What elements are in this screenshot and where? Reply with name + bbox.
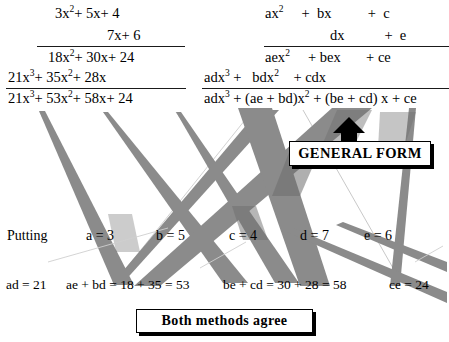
assignment-b: b = 5 bbox=[156, 228, 185, 244]
general-form-label: GENERAL FORM bbox=[298, 145, 422, 162]
algebraic-multiplicand: ax2 + bx + c bbox=[265, 6, 390, 21]
assignment-c: c = 4 bbox=[229, 228, 257, 244]
numeric-multiplier: 7x+ 6 bbox=[107, 28, 141, 43]
assignment-d: d = 7 bbox=[300, 228, 329, 244]
numeric-total: 21x3+ 53x2+ 58x+ 24 bbox=[8, 91, 133, 106]
numeric-partial-1: 18x2+ 30x+ 24 bbox=[48, 50, 134, 65]
coefficient-ad: ad = 21 bbox=[6, 277, 47, 293]
band-ad bbox=[39, 111, 134, 285]
putting-label: Putting bbox=[7, 228, 47, 244]
algebraic-total: adx3 + (ae + bd)x2 + (be + cd) x + ce bbox=[204, 91, 417, 106]
algebraic-partial-2: adx3 + bdx2 + cdx bbox=[204, 70, 326, 85]
numeric-partial-2: 21x3+ 35x2+ 28x bbox=[8, 70, 106, 85]
coefficient-ce: ce = 24 bbox=[389, 277, 429, 293]
coefficient-be-cd: be + cd = 30 + 28 = 58 bbox=[223, 277, 346, 293]
diagram-canvas: 3x2+ 5x+ 4 7x+ 6 18x2+ 30x+ 24 21x3+ 35x… bbox=[0, 0, 449, 342]
exp-3b: 3 bbox=[225, 89, 230, 99]
assignment-a: a = 3 bbox=[86, 228, 114, 244]
exp-2d: 2 bbox=[305, 89, 310, 99]
algebraic-rule-1 bbox=[264, 46, 449, 47]
coefficient-ae-bd: ae + bd = 18 + 35 = 53 bbox=[66, 277, 189, 293]
exp-2c: 2 bbox=[274, 68, 279, 78]
exp-2a: 2 bbox=[279, 4, 284, 14]
exp-3a: 3 bbox=[225, 68, 230, 78]
exp-2b: 2 bbox=[285, 48, 290, 58]
numeric-rule-1 bbox=[37, 46, 185, 47]
numeric-multiplicand: 3x2+ 5x+ 4 bbox=[55, 6, 120, 21]
algebraic-partial-1: aex2 + bex + ce bbox=[265, 50, 391, 65]
both-methods-agree-callout[interactable]: Both methods agree bbox=[136, 309, 313, 333]
general-form-callout[interactable]: GENERAL FORM bbox=[289, 141, 431, 166]
both-methods-label: Both methods agree bbox=[162, 313, 288, 329]
algebraic-multiplier: dx + e bbox=[330, 28, 406, 43]
assignment-e: e = 6 bbox=[364, 228, 392, 244]
